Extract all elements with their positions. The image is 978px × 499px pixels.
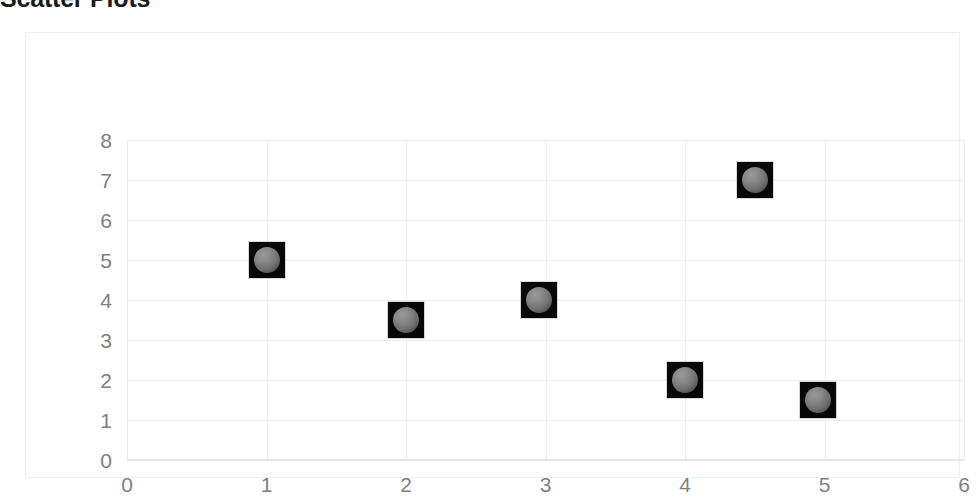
scatter-point-bead xyxy=(526,287,552,313)
gridline-vertical xyxy=(964,140,965,460)
gridline-vertical xyxy=(406,140,407,460)
x-axis-tick-label: 5 xyxy=(795,474,855,495)
gridline-vertical xyxy=(267,140,268,460)
scatter-point[interactable] xyxy=(387,301,425,339)
scatter-point[interactable] xyxy=(799,381,837,419)
y-axis-tick-label: 4 xyxy=(72,290,112,311)
scatter-point-bead xyxy=(805,387,831,413)
x-axis-tick-label: 2 xyxy=(376,474,436,495)
gridline-horizontal xyxy=(127,460,964,461)
chart-title: Scatter Plots xyxy=(0,0,150,11)
y-axis-tick-label: 3 xyxy=(72,330,112,351)
x-axis-tick-label: 3 xyxy=(516,474,576,495)
scatter-point-bead xyxy=(393,307,419,333)
y-axis-tick-label: 6 xyxy=(72,210,112,231)
scatter-point[interactable] xyxy=(520,281,558,319)
y-axis-tick-labels: 012345678 xyxy=(68,140,112,460)
x-axis-tick-label: 1 xyxy=(237,474,297,495)
y-axis-tick-label: 0 xyxy=(72,450,112,471)
x-axis-tick-label: 6 xyxy=(934,474,978,495)
scatter-point[interactable] xyxy=(666,361,704,399)
x-axis-tick-labels: 0123456 xyxy=(127,474,964,499)
plot-area xyxy=(127,140,964,460)
scatter-point[interactable] xyxy=(736,161,774,199)
gridline-vertical xyxy=(685,140,686,460)
x-axis-line xyxy=(127,459,964,460)
y-axis-tick-label: 2 xyxy=(72,370,112,391)
y-axis-tick-label: 5 xyxy=(72,250,112,271)
y-axis-tick-label: 1 xyxy=(72,410,112,431)
y-axis-tick-label: 8 xyxy=(72,130,112,151)
scatter-point-bead xyxy=(672,367,698,393)
scatter-point-bead xyxy=(254,247,280,273)
x-axis-tick-label: 0 xyxy=(97,474,157,495)
y-axis-tick-label: 7 xyxy=(72,170,112,191)
scatter-point[interactable] xyxy=(248,241,286,279)
x-axis-tick-label: 4 xyxy=(655,474,715,495)
scatter-point-bead xyxy=(742,167,768,193)
chart-frame: 012345678 0123456 xyxy=(25,32,960,478)
gridline-vertical xyxy=(127,140,128,460)
